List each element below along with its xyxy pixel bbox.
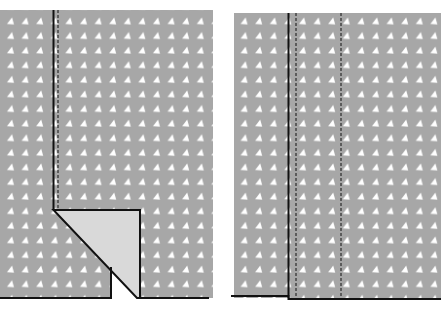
diagram-canvas	[0, 0, 446, 312]
left-panel	[0, 10, 213, 298]
fabric-right-piece	[234, 13, 441, 298]
right-panel	[231, 13, 441, 299]
